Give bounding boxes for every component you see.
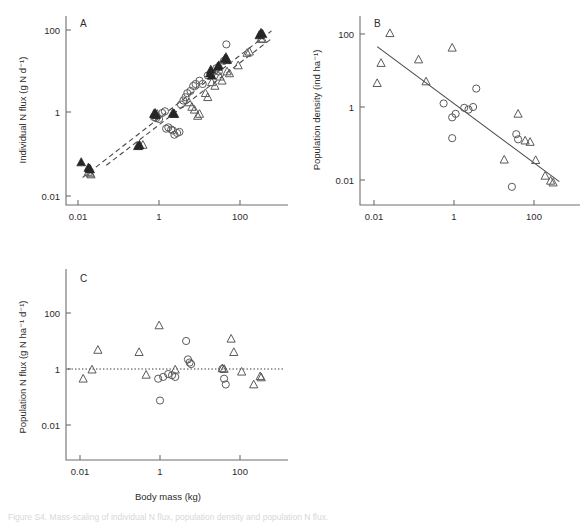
data-point-open-triangle [514,110,522,118]
panel-b-label: B [374,18,381,29]
data-point-filled-triangle [77,158,86,166]
panel-c-ylabel: Population N flux (g N ha⁻¹ d⁻¹) [17,300,28,433]
panel-b-points [373,29,557,191]
data-point-open-triangle [238,367,246,375]
panel-c-plot: 100 1 0.01 0.01 1 100 Population N flux … [0,255,300,515]
panel-b-yticklabel-100: 100 [338,29,354,40]
panel-c-points [79,321,265,404]
data-point-open-triangle [230,348,238,356]
panel-a-label: A [80,18,87,29]
panel-a-xticklabel-1: 1 [156,211,161,222]
panel-b-xticklabel-1: 1 [451,211,456,222]
figure-caption: Figure S4. Mass-scaling of individual N … [8,512,580,522]
data-point-open-triangle [227,334,235,342]
panel-a-yticklabel-100: 100 [44,25,60,36]
data-point-open-triangle [373,79,381,87]
panel-a-plot: 100 1 0.01 0.01 1 100 Individual N flux … [0,0,300,250]
data-point-open-triangle [142,371,150,379]
panel-c-yticklabel-1: 1 [55,364,60,375]
data-point-open-circle [461,104,468,111]
panel-c-label: C [80,273,87,284]
data-point-open-circle [473,85,480,92]
data-point-open-triangle [386,29,394,37]
regression-line [377,47,559,182]
data-point-open-circle [440,100,447,107]
panel-b-fitlines [377,47,559,182]
data-point-open-circle [449,135,456,142]
data-point-open-circle [155,375,162,382]
panel-b-yticklabel-0.01: 0.01 [336,175,355,186]
panel-b-xticklabel-100: 100 [526,211,542,222]
panel-a-xticklabel-100: 100 [232,211,248,222]
panel-a-axes [66,16,288,205]
data-point-open-triangle [135,348,143,356]
panel-b-axes [360,16,580,205]
panel-c-xticklabel-100: 100 [232,466,248,477]
panel-a-xticklabel-0.01: 0.01 [69,211,88,222]
regression-line [106,39,271,166]
data-point-open-triangle [414,55,422,63]
panel-b-plot: 100 1 0.01 0.01 1 100 Population density… [294,0,588,250]
panel-a-yticklabel-1: 1 [55,107,60,118]
data-point-open-triangle [79,374,87,382]
panel-c-yticklabel-100: 100 [44,308,60,319]
panel-c-xlabel: Body mass (kg) [135,491,201,502]
panel-c: 100 1 0.01 0.01 1 100 Population N flux … [0,255,300,515]
panel-a-yticklabel-0.01: 0.01 [42,191,61,202]
data-point-open-triangle [250,380,258,388]
panel-b-ylabel: Population density (ind ha⁻¹) [311,50,322,171]
panel-b-xticklabel-0.01: 0.01 [365,211,384,222]
data-point-open-triangle [521,136,529,144]
panel-c-xticklabel-0.01: 0.01 [71,466,90,477]
panel-a-points [77,28,267,178]
data-point-open-triangle [94,346,102,354]
data-point-open-triangle [201,89,209,97]
panel-c-yticklabel-0.01: 0.01 [42,420,61,431]
panel-a: 100 1 0.01 0.01 1 100 Individual N flux … [0,0,300,250]
panel-c-axes [66,269,288,460]
panel-a-ylabel: Individual N flux (g N d⁻¹) [17,57,28,164]
data-point-open-triangle [155,321,163,329]
data-point-open-circle [183,337,190,344]
data-point-open-triangle [500,155,508,163]
panel-b: 100 1 0.01 0.01 1 100 Population density… [294,0,588,250]
data-point-open-circle [156,397,163,404]
data-point-open-circle [508,183,515,190]
panel-c-xticklabel-1: 1 [157,466,162,477]
figure-container: 100 1 0.01 0.01 1 100 Individual N flux … [0,0,588,523]
data-point-open-triangle [448,43,456,51]
panel-b-yticklabel-1: 1 [349,102,354,113]
data-point-open-circle [223,41,230,48]
data-point-open-triangle [377,59,385,67]
